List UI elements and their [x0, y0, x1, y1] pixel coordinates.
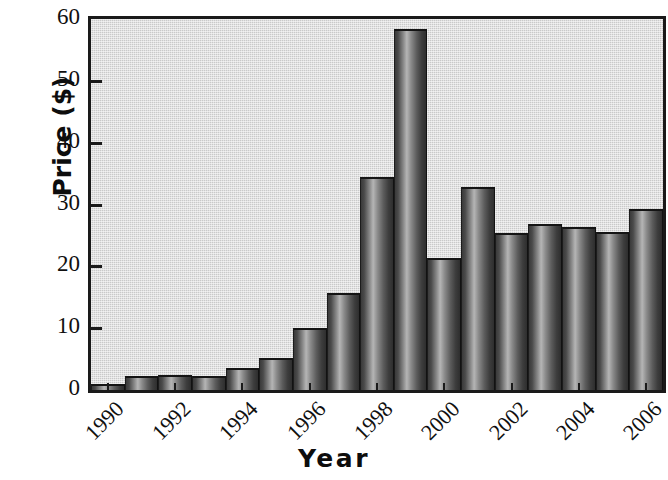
bar: [562, 227, 596, 390]
bar: [461, 187, 495, 390]
x-tick-mark: [376, 383, 378, 390]
bar: [259, 358, 293, 390]
bar: [293, 328, 327, 390]
bar: [528, 224, 562, 390]
plot-area: [88, 16, 666, 393]
y-tick-mark: [91, 80, 102, 83]
y-tick-mark: [91, 142, 102, 145]
y-tick-label: 50: [36, 67, 80, 90]
x-tick-mark: [107, 383, 109, 390]
x-axis-title: Year: [0, 444, 668, 473]
bar: [629, 209, 663, 390]
x-tick-mark: [645, 383, 647, 390]
x-tick-mark: [174, 383, 176, 390]
y-tick-label: 30: [36, 191, 80, 214]
x-tick-mark: [578, 383, 580, 390]
bar: [125, 376, 159, 390]
y-tick-mark: [91, 327, 102, 330]
y-tick-mark: [91, 204, 102, 207]
x-tick-mark: [241, 383, 243, 390]
y-axis-tick-labels: 0102030405060: [32, 0, 80, 480]
y-tick-label: 60: [36, 5, 80, 28]
bar: [327, 293, 361, 390]
x-tick-mark: [309, 383, 311, 390]
y-tick-mark: [91, 265, 102, 268]
y-tick-label: 20: [36, 252, 80, 275]
bar: [596, 232, 630, 390]
bar: [192, 376, 226, 390]
y-tick-label: 40: [36, 129, 80, 152]
bar: [495, 233, 529, 390]
bar: [394, 29, 428, 390]
y-tick-label: 10: [36, 314, 80, 337]
x-tick-mark: [443, 383, 445, 390]
bar-chart-figure: Price ($) 0102030405060 1990199219941996…: [0, 0, 668, 480]
x-tick-mark: [511, 383, 513, 390]
bar: [427, 258, 461, 390]
y-tick-label: 0: [36, 376, 80, 399]
bar: [360, 177, 394, 390]
